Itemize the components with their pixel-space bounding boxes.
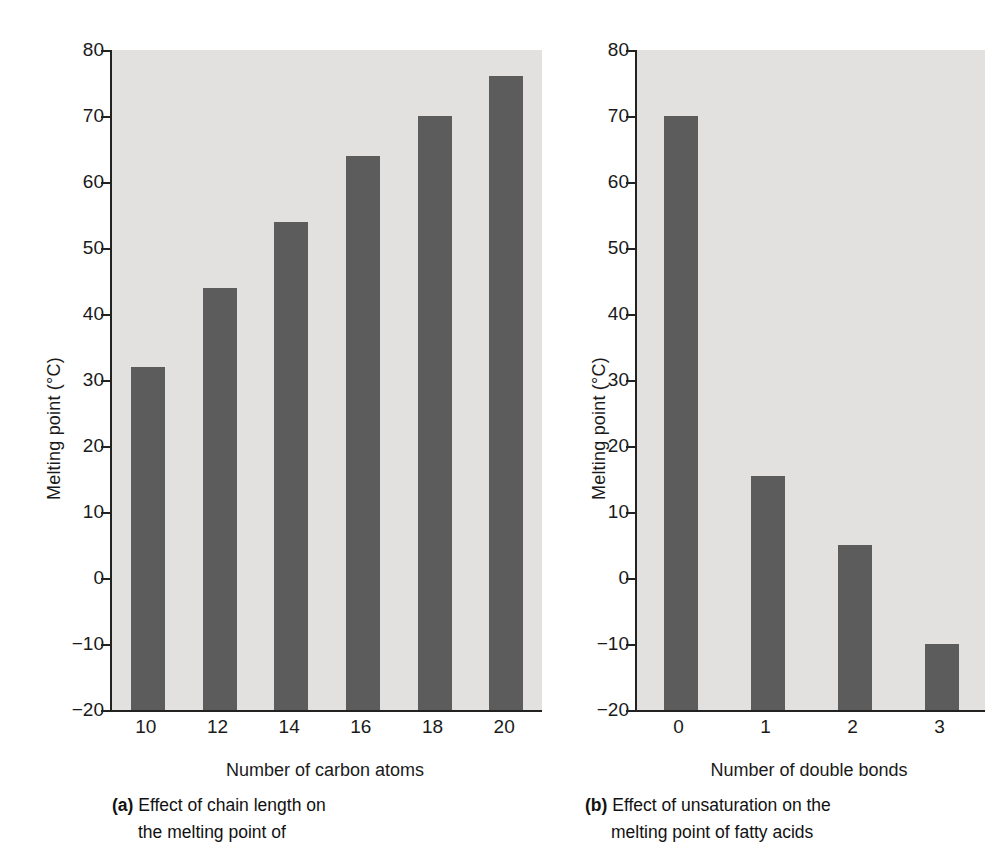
panel-b-x-tick-3: 3	[934, 716, 945, 738]
panel-a-chain-length: Melting point (°C) 80706050403020100−10−…	[0, 0, 565, 829]
panel-a-caption: (a) Effect of chain length on the meltin…	[112, 792, 326, 846]
panel-a-plot-area	[110, 50, 542, 712]
panel-a-y-tickmark-20	[101, 446, 110, 448]
bar-10	[131, 367, 165, 710]
panel-a-y-tickmark-40	[101, 314, 110, 316]
panel-b-y-tickmark-10	[626, 512, 635, 514]
bar-1	[751, 476, 785, 710]
panel-b-y-tick--20: −20	[597, 699, 629, 721]
panel-b-y-tickmark-60	[626, 182, 635, 184]
bar-0	[664, 116, 698, 710]
panel-b-y-tickmark--10	[626, 644, 635, 646]
panel-b-y-tickmark--20	[626, 710, 635, 712]
panel-b-y-tickmark-70	[626, 116, 635, 118]
panel-b-x-axis-title: Number of double bonds	[710, 760, 907, 781]
panel-a-x-tick-20: 20	[494, 716, 515, 738]
panel-a-y-tickmark-30	[101, 380, 110, 382]
panel-b-y-tick-labels: 80706050403020100−10−20	[583, 0, 629, 829]
panel-a-y-tick--10: −10	[72, 633, 104, 655]
bar-20	[489, 76, 523, 710]
panel-a-x-axis-title: Number of carbon atoms	[226, 760, 424, 781]
panel-b-y-tickmark-50	[626, 248, 635, 250]
panel-a-x-tick-10: 10	[135, 716, 156, 738]
panel-b-caption-line1: Effect of unsaturation on the	[612, 795, 831, 815]
panel-b-x-tick-2: 2	[847, 716, 858, 738]
panel-a-y-tickmark-60	[101, 182, 110, 184]
bar-2	[838, 545, 872, 710]
panel-b-caption-line2: melting point of fatty acids	[585, 819, 831, 846]
panel-b-bars	[637, 50, 985, 710]
panel-a-y-tick--20: −20	[72, 699, 104, 721]
panel-a-x-tick-18: 18	[422, 716, 443, 738]
panel-b-x-tick-1: 1	[760, 716, 771, 738]
panel-a-x-tick-12: 12	[207, 716, 228, 738]
panel-a-y-tickmark-70	[101, 116, 110, 118]
panel-a-caption-line1: Effect of chain length on	[138, 795, 325, 815]
bar-14	[274, 222, 308, 710]
panel-a-caption-line2: the melting point of	[112, 819, 326, 846]
panel-b-caption-tag: (b)	[585, 795, 607, 815]
panel-a-y-tickmark--20	[101, 710, 110, 712]
panel-a-x-tick-16: 16	[350, 716, 371, 738]
panel-a-caption-tag: (a)	[112, 795, 133, 815]
panel-a-bars	[112, 50, 542, 710]
panel-a-y-tickmark-50	[101, 248, 110, 250]
panel-b-y-tickmark-30	[626, 380, 635, 382]
panel-b-plot-area	[635, 50, 985, 712]
panel-a-x-tick-14: 14	[279, 716, 300, 738]
panel-b-caption: (b) Effect of unsaturation on the meltin…	[585, 792, 831, 846]
panel-b-y-tickmark-0	[626, 578, 635, 580]
panel-a-y-tickmark-0	[101, 578, 110, 580]
panel-b-x-tick-0: 0	[673, 716, 684, 738]
panel-a-y-tick-labels: 80706050403020100−10−20	[58, 0, 104, 829]
bar-12	[203, 288, 237, 710]
panel-b-y-tickmark-20	[626, 446, 635, 448]
panel-a-y-tickmark-80	[101, 50, 110, 52]
panel-b-y-tickmark-80	[626, 50, 635, 52]
bar-3	[925, 644, 959, 710]
panel-a-y-tickmark-10	[101, 512, 110, 514]
panel-a-y-tickmark--10	[101, 644, 110, 646]
panel-b-y-tickmark-40	[626, 314, 635, 316]
panel-b-y-tick--10: −10	[597, 633, 629, 655]
bar-18	[418, 116, 452, 710]
panel-b-unsaturation: Melting point (°C) 80706050403020100−10−…	[565, 0, 931, 829]
bar-16	[346, 156, 380, 710]
